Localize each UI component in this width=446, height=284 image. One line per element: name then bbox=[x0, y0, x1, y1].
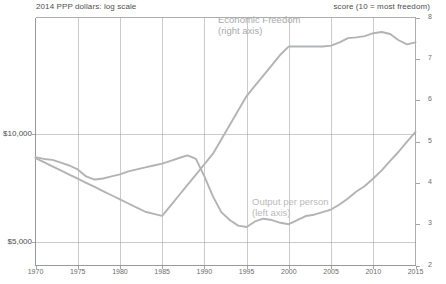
chart-container: 2014 PPP dollars: log scale score (10 = … bbox=[0, 0, 446, 284]
x-axis-tick-label: 1990 bbox=[197, 268, 213, 275]
y-axis-left-tick-label: $5,000 bbox=[0, 237, 32, 246]
y-axis-right-tick-label: 8 bbox=[428, 13, 432, 20]
series-label-output-per-person-line1: Output per person bbox=[252, 196, 329, 207]
data-series bbox=[36, 32, 416, 227]
y-axis-right-tick-label: 5 bbox=[428, 137, 432, 144]
right-axis-note: score (10 = most freedom) bbox=[333, 2, 430, 11]
grid-lines bbox=[36, 18, 416, 266]
x-axis-tick-label: 1975 bbox=[70, 268, 86, 275]
y-axis-right-tick-label: 7 bbox=[428, 54, 432, 61]
axis-ticks bbox=[32, 19, 420, 269]
series-line-output-per-person bbox=[36, 132, 416, 227]
y-axis-right-tick-label: 4 bbox=[428, 178, 432, 185]
x-axis-tick-label: 1985 bbox=[154, 268, 170, 275]
x-axis-tick-label: 2005 bbox=[323, 268, 339, 275]
series-label-economic-freedom-line1: Economic Freedom bbox=[218, 14, 300, 25]
x-axis-tick-label: 2010 bbox=[365, 268, 381, 275]
x-axis-tick-label: 1995 bbox=[239, 268, 255, 275]
x-axis-tick-label: 2000 bbox=[281, 268, 297, 275]
x-axis-tick-label: 1970 bbox=[28, 268, 44, 275]
plot-frame bbox=[36, 18, 416, 266]
series-label-economic-freedom-line2: (right axis) bbox=[218, 25, 300, 36]
x-axis-tick-label: 1980 bbox=[112, 268, 128, 275]
left-axis-note: 2014 PPP dollars: log scale bbox=[36, 2, 136, 11]
y-axis-right-tick-label: 2 bbox=[428, 261, 432, 268]
series-label-output-per-person-line2: (left axis) bbox=[252, 207, 329, 218]
series-line-economic-freedom bbox=[36, 32, 416, 216]
series-label-economic-freedom: Economic Freedom (right axis) bbox=[218, 14, 300, 36]
y-axis-left-tick-label: $10,000 bbox=[0, 129, 32, 138]
y-axis-right-tick-label: 6 bbox=[428, 95, 432, 102]
y-axis-right-tick-label: 3 bbox=[428, 219, 432, 226]
chart-plot-area bbox=[0, 0, 446, 284]
x-axis-tick-label: 2015 bbox=[408, 268, 424, 275]
series-label-output-per-person: Output per person (left axis) bbox=[252, 196, 329, 218]
